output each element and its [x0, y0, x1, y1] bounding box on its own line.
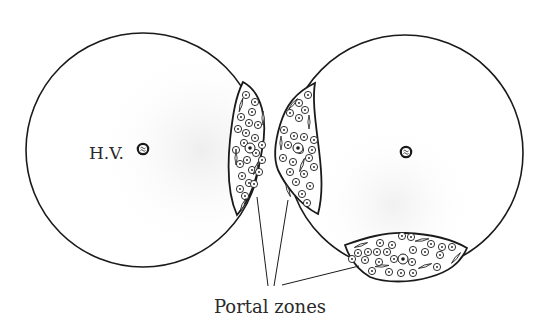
leader-line-bottom [282, 266, 359, 285]
leader-line-left [257, 197, 268, 286]
portal-zones-label: Portal zones [214, 296, 326, 317]
liver-lobule-diagram: H.V. [0, 0, 551, 324]
central-vein-label: H.V. [89, 143, 124, 163]
portal-zone-bottom [345, 232, 467, 281]
central-vein-left-icon [138, 144, 148, 154]
central-vein-right-icon [401, 147, 411, 157]
leader-line-middle [274, 200, 288, 286]
portal-zone-middle [275, 83, 321, 214]
